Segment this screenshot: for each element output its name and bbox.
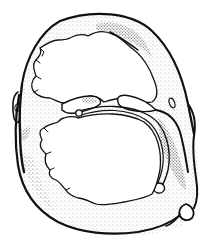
- illustration-canvas: [0, 0, 207, 241]
- bone-ring-drawing: [0, 0, 207, 241]
